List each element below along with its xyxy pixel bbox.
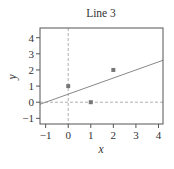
y-tick-label: 2 [29,64,35,76]
chart: Line 3 −101234−101234 x y [0,0,174,169]
y-axis-label: y [6,74,19,81]
data-point [89,100,93,104]
chart-title: Line 3 [86,7,116,19]
plot-area: −101234−101234 [22,28,163,141]
x-axis-label: x [97,143,104,155]
y-tick-label: 1 [29,80,35,92]
plot-frame [40,28,163,124]
data-point [66,84,70,88]
x-tick-label: 1 [88,129,94,141]
y-tick-label: 3 [29,48,35,60]
fitted-line [40,60,163,104]
y-tick-label: −1 [22,112,34,124]
x-tick-label: 0 [65,129,71,141]
data-point [111,68,115,72]
x-tick-label: 3 [133,129,139,141]
y-tick-label: 0 [29,96,35,108]
y-tick-label: 4 [29,32,35,44]
x-tick-label: 2 [111,129,117,141]
x-tick-label: −1 [40,129,52,141]
x-tick-label: 4 [156,129,162,141]
